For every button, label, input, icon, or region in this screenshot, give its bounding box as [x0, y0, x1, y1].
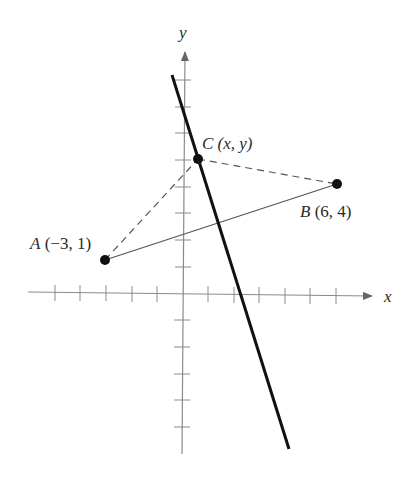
coordinate-diagram: x y A (−3, 1) B: [0, 0, 407, 480]
point-c-name: C: [202, 134, 214, 153]
y-axis-label: y: [177, 23, 187, 42]
point-b-coords: (6, 4): [315, 202, 352, 221]
x-axis: x: [28, 285, 392, 306]
point-b-name: B: [300, 202, 311, 221]
point-a-label: A (−3, 1): [29, 234, 91, 253]
segment-cb-dashed: [198, 159, 337, 184]
point-c-coords: (x, y): [218, 134, 253, 153]
point-c: [193, 154, 203, 164]
x-axis-label: x: [383, 287, 392, 306]
point-a-coords: (−3, 1): [45, 234, 91, 253]
point-c-label: C (x, y): [202, 134, 253, 153]
point-a-name: A: [29, 234, 41, 253]
point-b: [332, 179, 342, 189]
point-a: [100, 255, 110, 265]
point-b-label: B (6, 4): [300, 202, 351, 221]
perpendicular-bisector-line: [172, 75, 289, 449]
